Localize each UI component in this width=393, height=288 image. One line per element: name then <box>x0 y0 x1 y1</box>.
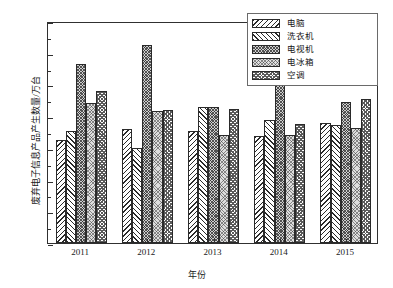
y-axis-minor-tick <box>48 134 51 135</box>
bar-chart: 废弃电子信息产品产生数量/万台 05101520253035 201120122… <box>0 0 393 288</box>
x-axis-tick <box>346 239 347 243</box>
bar-空调-2012 <box>163 110 173 243</box>
x-axis-tick-label-2014: 2014 <box>249 247 309 257</box>
x-axis-tick-label-2012: 2012 <box>116 247 176 257</box>
y-axis-minor-tick <box>48 102 51 103</box>
bar-洗衣机-2013 <box>198 107 208 243</box>
y-axis-tick <box>48 55 53 56</box>
chart-legend: 电脑洗衣机电视机电冰箱空调 <box>247 13 378 86</box>
legend-swatch-icon-电脑 <box>252 19 280 28</box>
y-axis-tick <box>48 23 53 24</box>
bar-洗衣机-2012 <box>132 148 142 243</box>
x-axis-tick <box>81 239 82 243</box>
x-axis-tick-label-2013: 2013 <box>183 247 243 257</box>
y-axis-minor-tick <box>48 166 51 167</box>
legend-item-电脑: 电脑 <box>252 17 373 30</box>
bar-电视机-2015 <box>341 102 351 243</box>
bar-洗衣机-2015 <box>331 125 341 243</box>
x-axis-title: 年份 <box>0 268 393 281</box>
y-axis-minor-tick <box>48 229 51 230</box>
x-axis-tick <box>214 239 215 243</box>
y-axis-minor-tick <box>48 197 51 198</box>
bar-电冰箱-2015 <box>351 128 361 243</box>
legend-label: 电脑 <box>287 19 305 28</box>
legend-label: 电冰箱 <box>287 58 314 67</box>
x-axis-tick <box>147 239 148 243</box>
y-axis-title: 废弃电子信息产品产生数量/万台 <box>29 46 42 236</box>
bar-电脑-2013 <box>188 131 198 243</box>
x-axis-tick-label-2015: 2015 <box>315 247 375 257</box>
bar-电冰箱-2014 <box>285 135 295 243</box>
y-axis-minor-tick <box>48 39 51 40</box>
bar-空调-2015 <box>361 99 371 243</box>
legend-item-电视机: 电视机 <box>252 43 373 56</box>
y-axis-minor-tick <box>48 71 51 72</box>
legend-swatch-icon-洗衣机 <box>252 32 280 41</box>
bar-电冰箱-2011 <box>86 103 96 243</box>
x-axis-tick-label-2011: 2011 <box>50 247 110 257</box>
bar-洗衣机-2011 <box>66 131 76 243</box>
y-axis-tick <box>48 118 53 119</box>
y-axis-tick <box>48 86 53 87</box>
legend-label: 电视机 <box>287 45 314 54</box>
bar-电视机-2011 <box>76 64 86 243</box>
bar-电冰箱-2012 <box>152 111 162 243</box>
bar-电冰箱-2013 <box>219 135 229 243</box>
bar-电视机-2014 <box>275 69 285 243</box>
legend-label: 洗衣机 <box>287 32 314 41</box>
legend-swatch-icon-电视机 <box>252 45 280 54</box>
bar-电脑-2011 <box>56 140 66 243</box>
legend-swatch-icon-电冰箱 <box>252 58 280 67</box>
legend-label: 空调 <box>287 71 305 80</box>
legend-item-电冰箱: 电冰箱 <box>252 56 373 69</box>
bar-空调-2013 <box>229 109 239 243</box>
legend-item-洗衣机: 洗衣机 <box>252 30 373 43</box>
y-axis-tick <box>48 150 53 151</box>
bar-空调-2014 <box>295 124 305 243</box>
bar-空调-2011 <box>96 91 106 243</box>
legend-item-空调: 空调 <box>252 69 373 82</box>
y-axis-tick <box>48 245 53 246</box>
y-axis-tick <box>48 182 53 183</box>
bar-洗衣机-2014 <box>264 120 274 243</box>
bar-电脑-2012 <box>122 129 132 243</box>
bar-电视机-2012 <box>142 45 152 243</box>
y-axis-tick <box>48 213 53 214</box>
bar-电脑-2014 <box>254 136 264 243</box>
bar-电视机-2013 <box>208 107 218 243</box>
bar-电脑-2015 <box>320 123 330 243</box>
x-axis-tick <box>280 239 281 243</box>
legend-swatch-icon-空调 <box>252 71 280 80</box>
